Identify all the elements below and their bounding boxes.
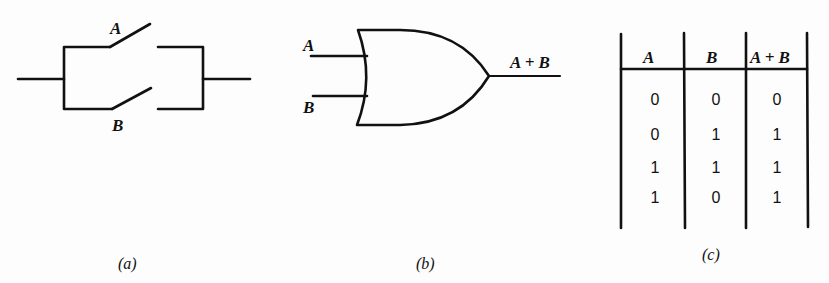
header-b: B <box>706 49 717 66</box>
cell: 0 <box>696 190 736 206</box>
cell: 1 <box>635 190 675 206</box>
cell: 1 <box>757 190 797 206</box>
caption-b: (b) <box>416 256 435 272</box>
caption-a: (a) <box>118 256 137 272</box>
output-label: A + B <box>510 54 550 71</box>
cell: 1 <box>757 160 797 176</box>
switch-circuit <box>18 24 250 109</box>
or-logic-figure: A B (a) A B A + B (b) A B A + B 0 0 0 0 … <box>0 0 829 283</box>
cell: 0 <box>696 92 736 108</box>
cell: 1 <box>635 160 675 176</box>
cell: 1 <box>696 127 736 143</box>
or-gate <box>311 30 560 125</box>
switch-b <box>112 88 151 109</box>
cell: 0 <box>757 92 797 108</box>
header-a: A <box>643 49 654 66</box>
switch-b-label: B <box>112 117 123 134</box>
input-b-label: B <box>303 99 314 116</box>
header-a-plus-b: A + B <box>750 49 790 66</box>
caption-c: (c) <box>702 247 720 263</box>
switch-a-label: A <box>110 20 121 37</box>
cell: 1 <box>696 160 736 176</box>
cell: 0 <box>635 92 675 108</box>
cell: 1 <box>757 127 797 143</box>
cell: 0 <box>635 127 675 143</box>
input-a-label: A <box>303 37 314 54</box>
